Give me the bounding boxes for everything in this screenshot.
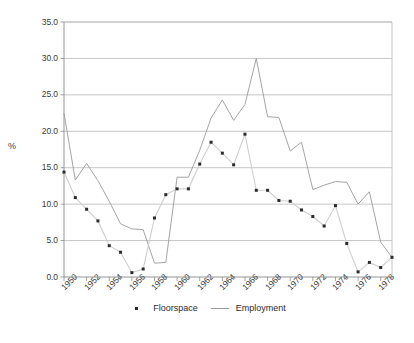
x-axis-minor-ticks (61, 22, 393, 281)
legend-label-employment: Employment (236, 303, 286, 313)
plot-area (0, 0, 414, 343)
series-employment-line (64, 58, 392, 263)
square-marker-icon (128, 304, 146, 313)
series-floorspace-line (64, 134, 392, 272)
chart-container: % 0.05.010.015.020.025.030.035.0 1950195… (0, 0, 414, 343)
chart-legend: Floorspace Employment (0, 303, 414, 313)
plot-frame (64, 22, 392, 277)
legend-item-floorspace: Floorspace (128, 303, 198, 313)
series-floorspace-markers (63, 133, 394, 274)
legend-item-employment: Employment (211, 303, 286, 313)
line-swatch-icon (211, 304, 229, 313)
legend-label-floorspace: Floorspace (153, 303, 198, 313)
gridlines (64, 22, 392, 241)
